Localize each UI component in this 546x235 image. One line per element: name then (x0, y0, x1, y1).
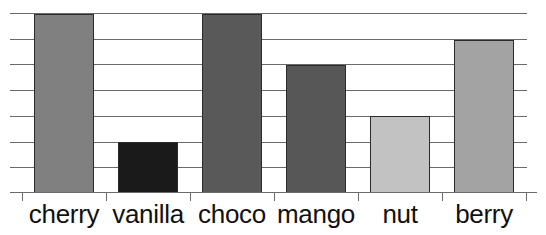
x-label-vanilla: vanilla (106, 198, 190, 230)
y-axis-tick (10, 39, 22, 40)
x-label-mango: mango (274, 198, 358, 230)
bar-berry[interactable] (454, 40, 514, 193)
y-axis-tick (10, 142, 22, 143)
plot-area (22, 13, 527, 193)
bars-layer (22, 13, 527, 193)
y-axis-tick (10, 13, 22, 14)
x-label-cherry: cherry (22, 198, 106, 230)
y-axis-tick (10, 116, 22, 117)
y-axis-tick (10, 167, 22, 168)
x-axis-labels: cherry vanilla choco mango nut berry (22, 198, 527, 232)
x-label-berry: berry (442, 198, 526, 230)
x-label-nut: nut (358, 198, 442, 230)
y-axis-tick (10, 90, 22, 91)
bar-mango[interactable] (286, 65, 346, 193)
bar-vanilla[interactable] (118, 142, 178, 193)
bar-cherry[interactable] (34, 14, 94, 193)
y-axis-tick (10, 64, 22, 65)
x-label-choco: choco (190, 198, 274, 230)
bar-chart: cherry vanilla choco mango nut berry (0, 0, 546, 235)
bar-choco[interactable] (202, 14, 262, 193)
bar-nut[interactable] (370, 116, 430, 193)
